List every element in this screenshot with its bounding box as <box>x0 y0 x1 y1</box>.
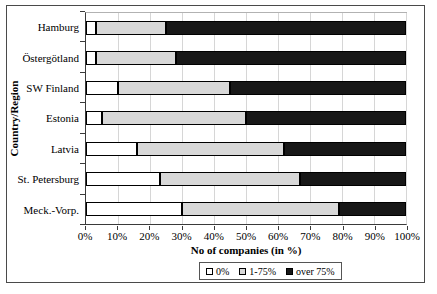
y-tick <box>80 41 85 42</box>
bar-segment-175 <box>182 202 339 216</box>
y-tick <box>80 102 85 103</box>
y-tick <box>80 194 85 195</box>
bar-row <box>86 13 406 43</box>
legend-item: 1-75% <box>239 266 276 277</box>
bar-segment-175 <box>102 111 246 125</box>
bar-segment-0 <box>86 21 96 35</box>
x-tick-labels: 0%10%20%30%40%50%60%70%80%90%100% <box>85 230 407 242</box>
bar-segment-over75 <box>246 111 406 125</box>
bar-segment-0 <box>86 172 160 186</box>
bar-row <box>86 43 406 73</box>
legend: 0%1-75%over 75% <box>199 262 342 280</box>
bar-segment-175 <box>96 21 166 35</box>
bar-segment-over75 <box>300 172 406 186</box>
stacked-bar <box>86 172 406 186</box>
x-tick-label: 60% <box>268 230 288 242</box>
bar-row <box>86 73 406 103</box>
x-tick-label: 80% <box>333 230 353 242</box>
category-label: Estonia <box>8 103 82 133</box>
stacked-bar <box>86 81 406 95</box>
x-tick-label: 0% <box>78 230 93 242</box>
bar-segment-over75 <box>176 51 406 65</box>
y-ticks <box>80 12 85 225</box>
bar-segment-0 <box>86 51 96 65</box>
y-tick <box>80 72 85 73</box>
bar-segment-over75 <box>339 202 406 216</box>
category-label: Östergötland <box>8 42 82 72</box>
bar-segment-0 <box>86 81 118 95</box>
legend-swatch <box>286 268 293 275</box>
bar-segment-over75 <box>284 142 406 156</box>
x-tick-label: 10% <box>107 230 127 242</box>
bar-row <box>86 134 406 164</box>
x-tick-label: 100% <box>394 230 420 242</box>
legend-label: 0% <box>216 266 229 277</box>
legend-swatch <box>239 268 246 275</box>
category-label: Hamburg <box>8 12 82 42</box>
legend-label: 1-75% <box>249 266 276 277</box>
category-label: St. Petersburg <box>8 164 82 194</box>
category-label: Meck.-Vorp. <box>8 195 82 225</box>
legend-item: over 75% <box>286 266 335 277</box>
bar-segment-0 <box>86 111 102 125</box>
stacked-bar <box>86 142 406 156</box>
x-tick-label: 20% <box>139 230 159 242</box>
stacked-bar <box>86 21 406 35</box>
y-tick <box>80 133 85 134</box>
x-tick-label: 30% <box>172 230 192 242</box>
x-tick-label: 40% <box>204 230 224 242</box>
bar-segment-175 <box>160 172 301 186</box>
x-tick-label: 50% <box>236 230 256 242</box>
stacked-bar <box>86 111 406 125</box>
bar-segment-over75 <box>166 21 406 35</box>
stacked-bar <box>86 202 406 216</box>
legend-item: 0% <box>206 266 229 277</box>
gridline <box>406 13 407 224</box>
x-axis-title: No of companies (in %) <box>85 244 407 256</box>
bar-row <box>86 103 406 133</box>
x-tick-label: 70% <box>300 230 320 242</box>
plot-area <box>85 12 407 225</box>
category-label: Latvia <box>8 134 82 164</box>
bar-segment-0 <box>86 142 137 156</box>
bars <box>86 13 406 224</box>
bar-segment-175 <box>137 142 284 156</box>
legend-label: over 75% <box>296 266 335 277</box>
bar-segment-175 <box>118 81 230 95</box>
legend-swatch <box>206 268 213 275</box>
stacked-bar <box>86 51 406 65</box>
x-tick-label: 90% <box>365 230 385 242</box>
y-tick <box>80 163 85 164</box>
bar-row <box>86 194 406 224</box>
y-tick <box>80 11 85 12</box>
category-labels: HamburgÖstergötlandSW FinlandEstoniaLatv… <box>8 12 82 225</box>
y-tick <box>80 224 85 225</box>
bar-row <box>86 164 406 194</box>
bar-segment-175 <box>96 51 176 65</box>
bar-segment-over75 <box>230 81 406 95</box>
category-label: SW Finland <box>8 73 82 103</box>
chart-figure: Country/Region HamburgÖstergötlandSW Fin… <box>0 0 437 294</box>
bar-segment-0 <box>86 202 182 216</box>
